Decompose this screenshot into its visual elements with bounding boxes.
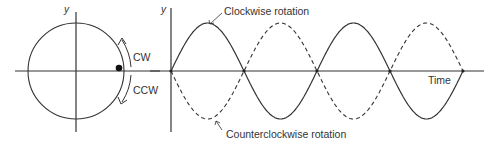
ccw-label: CCW <box>133 84 158 96</box>
circle-y-axis-label: y <box>63 4 70 15</box>
wave-y-axis-label: y <box>160 4 167 15</box>
zero-crossing-dot <box>169 69 172 72</box>
clockwise-rotation-label: Clockwise rotation <box>224 5 309 17</box>
zero-crossing-dot <box>461 69 464 72</box>
clockwise-leader <box>210 13 222 24</box>
cw-label: CW <box>133 51 151 63</box>
time-axis-label: Time <box>428 74 451 86</box>
rotation-waveform-diagram: y CW CCW y Time Clockwise rotatio <box>0 0 496 146</box>
zero-crossing-dot <box>242 69 245 72</box>
counterclockwise-rotation-label: Counterclockwise rotation <box>226 128 346 140</box>
circle-panel: y CW CCW <box>15 4 160 132</box>
rotating-point <box>116 65 123 72</box>
wave-panel: y Time Clockwise rotation Counterclockwi… <box>150 4 484 140</box>
zero-crossing-dot <box>388 69 391 72</box>
zero-crossing-dot <box>315 69 318 72</box>
